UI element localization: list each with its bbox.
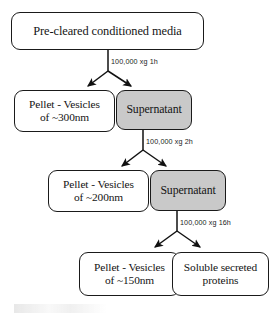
node-pellet-200nm: Pellet - Vesicles of ~200nm	[48, 170, 149, 212]
node-label-line-2: proteins	[203, 274, 239, 286]
edge-stage-1	[88, 50, 131, 86]
edge-stage-2	[122, 130, 166, 166]
node-label-line-1: Pellet - Vesicles	[29, 98, 100, 110]
node-label: Soluble secreted proteins	[176, 261, 265, 288]
node-label-line-1: Pellet - Vesicles	[63, 178, 134, 190]
node-pellet-150nm: Pellet - Vesicles of ~150nm	[79, 252, 180, 296]
node-soluble-secreted-proteins: Soluble secreted proteins	[172, 252, 269, 296]
node-supernatant-2: Supernatant	[150, 170, 226, 211]
node-supernatant-1: Supernatant	[116, 90, 192, 130]
edge-label-spin-3: 100,000 xg 16h	[180, 218, 231, 227]
edge-label-spin-2: 100,000 xg 2h	[146, 137, 193, 146]
node-label: Pre-cleared conditioned media	[15, 24, 200, 39]
node-label: Supernatant	[154, 184, 222, 198]
node-label-line-1: Pellet - Vesicles	[94, 261, 165, 273]
edge-stage-3	[155, 211, 200, 247]
node-label-line-2: of ~150nm	[105, 274, 154, 286]
scan-artifact	[14, 304, 106, 313]
node-pellet-300nm: Pellet - Vesicles of ~300nm	[14, 90, 115, 132]
node-label: Pellet - Vesicles of ~150nm	[83, 261, 176, 288]
node-label-line-2: of ~200nm	[74, 191, 123, 203]
node-label-line-2: of ~300nm	[40, 111, 89, 123]
flowchart-canvas: Pre-cleared conditioned media 100,000 xg…	[0, 0, 280, 316]
node-label-line-1: Soluble secreted	[184, 261, 257, 273]
node-label: Supernatant	[120, 103, 188, 117]
node-label: Pellet - Vesicles of ~300nm	[18, 98, 111, 125]
node-label: Pellet - Vesicles of ~200nm	[52, 178, 145, 205]
edge-label-spin-1: 100,000 xg 1h	[111, 57, 158, 66]
node-pre-cleared-conditioned-media: Pre-cleared conditioned media	[11, 12, 204, 50]
